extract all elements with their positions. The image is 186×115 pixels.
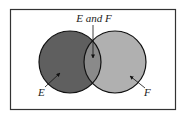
venn-diagram: E and F E F (0, 0, 186, 115)
set-e-label: E (37, 86, 45, 98)
intersection-label: E and F (75, 12, 112, 24)
